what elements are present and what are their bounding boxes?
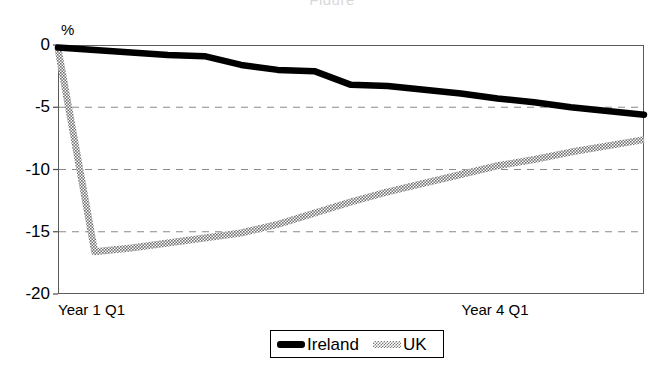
series-uk: [58, 49, 644, 252]
ireland-line: [58, 47, 644, 114]
gridlines-group: [59, 107, 643, 232]
legend-label-ireland: Ireland: [307, 336, 359, 353]
series-ireland: [58, 47, 644, 114]
legend-item-ireland: Ireland: [277, 336, 359, 353]
hatched-line-swatch-icon: [373, 341, 401, 348]
legend-item-uk: UK: [373, 336, 427, 353]
legend-label-uk: UK: [403, 336, 427, 353]
chart-plot-svg: [0, 0, 664, 384]
chart-legend: Ireland UK: [270, 330, 444, 358]
chart-container: Figure % 0 -5 -10 -15 -20 Year 1 Q1 Year…: [0, 0, 664, 384]
uk-line: [58, 49, 644, 252]
solid-line-swatch-icon: [277, 341, 305, 348]
y-axis-ticks-group: [53, 45, 58, 294]
